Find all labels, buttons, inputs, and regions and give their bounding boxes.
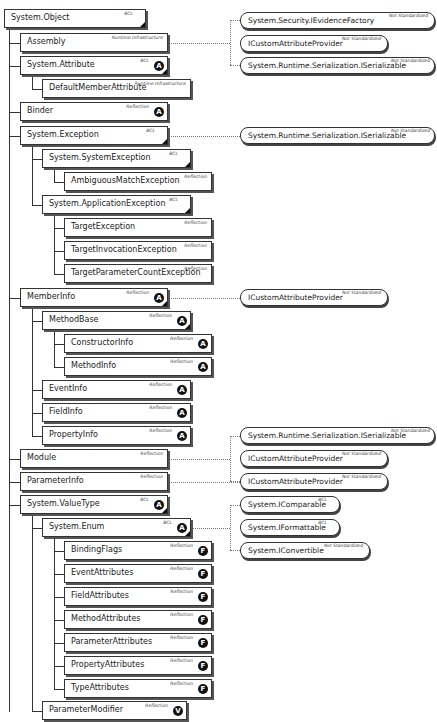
- interface-box[interactable]: System.IComparable BCL: [240, 496, 340, 513]
- class-box[interactable]: System.ApplicationException BCL: [42, 195, 191, 214]
- class-box[interactable]: System.ValueType BCL A: [20, 495, 168, 514]
- class-box[interactable]: PropertyInfo Reflection A: [42, 426, 191, 445]
- class-box[interactable]: PropertyAttributes Reflection F: [64, 656, 212, 675]
- class-tag: BCL: [140, 58, 149, 63]
- connector: [32, 75, 33, 90]
- class-tag: BCL: [169, 151, 178, 156]
- class-box[interactable]: MethodInfo Reflection A: [64, 357, 212, 376]
- connector: [54, 537, 55, 690]
- class-tag: Reflection: [140, 474, 163, 479]
- abstract-badge-icon: A: [177, 385, 187, 395]
- class-box[interactable]: ParameterModifier Reflection V: [42, 701, 187, 720]
- interface-tag: BCL: [318, 497, 327, 502]
- class-tag: BCL: [163, 520, 172, 525]
- interface-name: System.Runtime.Serialization.ISerializab…: [248, 431, 406, 440]
- class-box[interactable]: AmbiguousMatchException Reflection: [64, 172, 212, 191]
- class-name: ParameterAttributes: [71, 637, 152, 646]
- connector: [54, 551, 64, 552]
- class-box[interactable]: FieldAttributes Reflection F: [64, 587, 212, 606]
- class-name: EventAttributes: [71, 568, 133, 577]
- interface-box[interactable]: System.Runtime.Serialization.ISerializab…: [240, 57, 435, 74]
- abstract-badge-icon: A: [154, 107, 164, 117]
- interface-connector: [230, 20, 231, 65]
- class-name: FieldAttributes: [71, 591, 129, 600]
- class-box[interactable]: FieldInfo Reflection A: [42, 403, 191, 422]
- class-box[interactable]: ConstructorInfo Reflection A: [64, 334, 212, 353]
- interface-box[interactable]: ICustomAttributeProvider Not Standardize…: [240, 289, 388, 306]
- class-box[interactable]: System.SystemException BCL: [42, 149, 191, 168]
- class-tag: Runtime Infrastructure: [112, 35, 163, 40]
- class-box[interactable]: DefaultMemberAttribute Runtime Infrastru…: [42, 79, 191, 98]
- interface-box[interactable]: System.Runtime.Serialization.ISerializab…: [240, 127, 435, 144]
- flags-badge-icon: F: [198, 615, 208, 625]
- class-tag: Reflection: [149, 313, 172, 318]
- connector: [32, 159, 42, 160]
- connector: [9, 66, 20, 67]
- interface-name: ICustomAttributeProvider: [248, 39, 343, 48]
- class-box[interactable]: System.Exception BCL: [20, 126, 168, 145]
- class-box[interactable]: TargetInvocationException Reflection: [64, 241, 212, 260]
- interface-box[interactable]: System.Runtime.Serialization.ISerializab…: [240, 427, 435, 444]
- interface-tag: Not Standardized: [342, 36, 381, 41]
- class-box[interactable]: MethodAttributes Reflection F: [64, 610, 212, 629]
- connector: [54, 251, 64, 252]
- interface-box[interactable]: System.IConvertible Not Standardized: [240, 542, 370, 559]
- connector: [32, 390, 42, 391]
- class-box[interactable]: ParameterAttributes Reflection F: [64, 633, 212, 652]
- connector: [54, 597, 64, 598]
- interface-box[interactable]: ICustomAttributeProvider Not Standardize…: [240, 450, 388, 467]
- corner-marker-icon: [162, 69, 167, 74]
- interface-box[interactable]: System.Security.IEvidenceFactory Not Sta…: [240, 12, 435, 29]
- interface-box[interactable]: ICustomAttributeProvider Not Standardize…: [240, 35, 388, 52]
- connector: [32, 321, 42, 322]
- connector: [54, 344, 64, 345]
- connector: [9, 43, 20, 44]
- connector: [9, 459, 20, 460]
- connector: [54, 643, 64, 644]
- interface-connector: [230, 436, 240, 437]
- connector: [32, 205, 42, 206]
- interface-tag: Not Standardized: [342, 451, 381, 456]
- class-box[interactable]: ParameterInfo Reflection: [20, 472, 168, 491]
- class-name: MethodBase: [49, 315, 98, 324]
- class-tag: Reflection: [170, 359, 193, 364]
- class-name: DefaultMemberAttribute: [49, 83, 146, 92]
- class-box[interactable]: System.Attribute BCL A: [20, 56, 168, 75]
- class-box[interactable]: BindingFlags Reflection F: [64, 541, 212, 560]
- class-box[interactable]: TargetException Reflection: [64, 218, 212, 237]
- class-box[interactable]: Binder Reflection A: [20, 102, 168, 121]
- class-box[interactable]: TypeAttributes Reflection F: [64, 679, 212, 698]
- interface-connector: [168, 136, 240, 137]
- class-tag: BCL: [124, 11, 133, 16]
- connector: [9, 136, 20, 137]
- interface-tag: Not Standardized: [389, 13, 428, 18]
- class-box[interactable]: MethodBase Reflection A: [42, 311, 191, 330]
- connector: [32, 711, 42, 712]
- interface-connector: [230, 20, 240, 21]
- interface-tag: Not Standardized: [391, 428, 430, 433]
- connector: [32, 307, 33, 437]
- connector: [54, 182, 64, 183]
- class-box[interactable]: System.Enum BCL A: [42, 518, 191, 537]
- class-box[interactable]: EventAttributes Reflection F: [64, 564, 212, 583]
- interface-name: ICustomAttributeProvider: [248, 293, 343, 302]
- class-box[interactable]: Module Reflection: [20, 449, 168, 468]
- corner-marker-icon: [185, 324, 190, 329]
- corner-marker-icon: [162, 301, 167, 306]
- class-box[interactable]: MemberInfo Reflection A: [20, 288, 168, 307]
- interface-box[interactable]: ICustomAttributeProvider Not Standardize…: [240, 473, 388, 490]
- interface-box[interactable]: System.IFormattable BCL: [240, 519, 340, 536]
- class-tag: BCL: [146, 128, 155, 133]
- flags-badge-icon: F: [198, 638, 208, 648]
- class-name: System.ApplicationException: [49, 199, 165, 208]
- class-box[interactable]: Assembly Runtime Infrastructure: [20, 33, 168, 52]
- interface-tag: BCL: [318, 520, 327, 525]
- class-box[interactable]: EventInfo Reflection A: [42, 380, 191, 399]
- class-box[interactable]: System.Object BCL: [4, 9, 146, 28]
- flags-badge-icon: F: [198, 684, 208, 694]
- class-box[interactable]: TargetParameterCountException Reflection: [64, 264, 212, 283]
- interface-name: ICustomAttributeProvider: [248, 454, 343, 463]
- abstract-badge-icon: A: [198, 362, 208, 372]
- connector: [9, 505, 20, 506]
- class-name: TargetParameterCountException: [71, 268, 201, 277]
